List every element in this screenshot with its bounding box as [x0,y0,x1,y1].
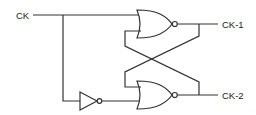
input-label-ck: CK [16,10,30,21]
output-label-ck2: CK-2 [222,90,244,101]
nor-gate-bottom [137,81,177,109]
nor-bottom-bubble-icon [172,93,177,98]
nor-top-body-icon [137,10,172,38]
nor-gate-top [137,10,177,38]
output-label-ck1: CK-1 [222,19,244,30]
nor-bottom-body-icon [137,81,172,109]
inverter-gate [80,92,102,110]
inverter-triangle-icon [80,92,97,110]
ck-branch-wire [63,15,80,101]
inverter-bubble-icon [97,99,102,104]
nor-top-bubble-icon [172,22,177,27]
circuit-diagram: CK CK-1 CK-2 [0,0,256,115]
